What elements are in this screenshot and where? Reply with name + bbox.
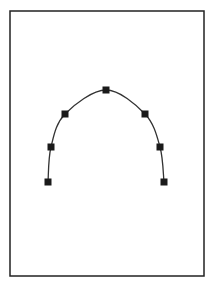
control-point-marker: [142, 111, 149, 118]
control-point-marker: [45, 179, 52, 186]
control-point-marker: [62, 111, 69, 118]
control-point-marker: [161, 179, 168, 186]
control-point-marker: [103, 87, 110, 94]
control-point-markers: [45, 87, 168, 186]
arch-curve-diagram: [0, 0, 215, 288]
control-point-marker: [157, 144, 164, 151]
interpolated-curve: [48, 90, 164, 182]
diagram-frame: [10, 11, 204, 276]
control-point-marker: [48, 144, 55, 151]
